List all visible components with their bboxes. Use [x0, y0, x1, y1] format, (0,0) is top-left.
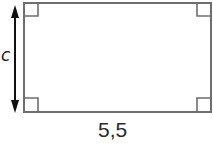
rectangle-outline [24, 3, 211, 112]
right-angle-marker-bottom-right [197, 98, 211, 112]
right-angle-marker-top-left [24, 3, 38, 16]
right-angle-marker-top-right [197, 3, 211, 16]
right-angle-marker-bottom-left [24, 98, 38, 112]
height-label: c [1, 47, 10, 64]
height-arrow-icon [11, 5, 19, 113]
width-label: 5,5 [98, 119, 127, 140]
